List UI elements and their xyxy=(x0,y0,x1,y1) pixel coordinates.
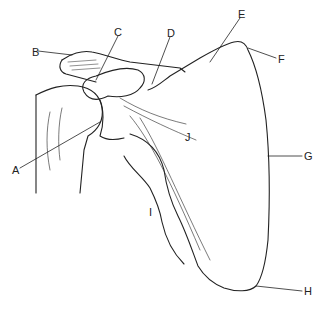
label-e: E xyxy=(238,9,245,20)
label-f: F xyxy=(278,54,285,65)
label-j: J xyxy=(185,132,191,143)
scapula-illustration xyxy=(0,0,325,310)
label-g: G xyxy=(304,151,313,162)
label-a: A xyxy=(12,165,19,176)
label-b: B xyxy=(32,47,39,58)
label-d: D xyxy=(167,28,175,39)
label-i: I xyxy=(149,207,152,218)
label-h: H xyxy=(304,286,312,297)
label-c: C xyxy=(114,27,122,38)
